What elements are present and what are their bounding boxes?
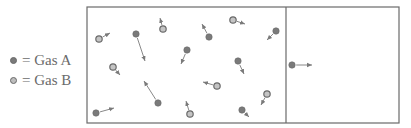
velocity-arrow-icon <box>100 108 114 112</box>
gas-b-particle <box>160 26 166 32</box>
gas-b-particle <box>230 17 236 23</box>
gas-a-particle <box>289 62 295 68</box>
particles-group <box>93 17 312 117</box>
velocity-arrow-icon <box>267 34 273 40</box>
gas-a-particle <box>273 28 279 34</box>
gas-b-particle <box>96 36 102 42</box>
gas-a-particle <box>184 47 190 53</box>
gas-a-particle <box>206 34 212 40</box>
gas-b-particle <box>187 111 193 117</box>
velocity-arrow-icon <box>160 18 162 25</box>
effusion-diagram <box>0 0 411 128</box>
velocity-arrow-icon <box>144 81 156 99</box>
velocity-arrow-icon <box>116 70 120 75</box>
velocity-arrow-icon <box>137 38 145 61</box>
velocity-arrow-icon <box>202 24 207 33</box>
velocity-arrow-icon <box>186 101 189 110</box>
velocity-arrow-icon <box>203 82 213 85</box>
gas-a-particle <box>93 110 99 116</box>
gas-b-particle <box>264 91 270 97</box>
gas-b-particle <box>110 64 116 70</box>
velocity-arrow-icon <box>261 98 265 105</box>
gas-a-particle <box>235 58 241 64</box>
gas-a-particle <box>133 31 139 37</box>
velocity-arrow-icon <box>240 65 244 74</box>
velocity-arrow-icon <box>237 21 245 24</box>
velocity-arrow-icon <box>103 33 110 37</box>
container-box <box>87 7 399 123</box>
gas-a-particle <box>239 107 245 113</box>
gas-a-particle <box>155 100 161 106</box>
velocity-arrow-icon <box>181 54 185 64</box>
gas-b-particle <box>214 83 220 89</box>
velocity-arrow-icon <box>245 113 249 117</box>
